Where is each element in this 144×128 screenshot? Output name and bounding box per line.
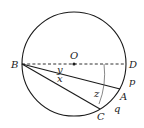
label-b: B [10,59,18,70]
chord-ba [22,64,120,89]
label-c: C [97,111,105,122]
label-d: D [128,59,137,70]
arc-label-q: q [114,103,120,114]
center-point-o [72,62,75,65]
arc-label-p: p [129,76,136,87]
label-o: O [70,50,78,61]
circle-geometry-diagram: O B D A C y x z p q [0,0,144,128]
angle-label-z: z [93,88,100,99]
label-a: A [119,91,127,102]
angle-label-x: x [57,73,63,84]
